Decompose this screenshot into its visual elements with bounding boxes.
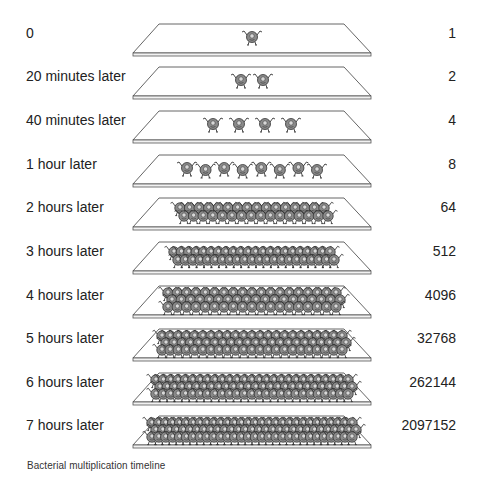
timeline-row: 7 hours later 2097152 [0,414,482,457]
time-label: 7 hours later [26,417,104,433]
petri-plate [131,153,375,193]
petri-plate [131,240,375,280]
count-label: 2097152 [401,417,456,433]
petri-plate [131,22,375,62]
timeline-row: 0 1 [0,22,482,65]
time-label: 0 [26,25,34,41]
petri-plate [131,371,375,411]
petri-plate [131,196,375,236]
count-label: 1 [448,25,456,41]
time-label: 6 hours later [26,374,104,390]
count-label: 4096 [425,287,456,303]
petri-plate [131,284,375,324]
time-label: 40 minutes later [26,112,126,128]
petri-plate [131,109,375,149]
timeline-row: 2 hours later 64 [0,196,482,239]
time-label: 2 hours later [26,199,104,215]
count-label: 4 [448,112,456,128]
time-label: 3 hours later [26,243,104,259]
count-label: 262144 [409,374,456,390]
time-label: 20 minutes later [26,68,126,84]
timeline-row: 4 hours later 4096 [0,284,482,327]
count-label: 32768 [417,330,456,346]
count-label: 2 [448,68,456,84]
timeline-row: 1 hour later 8 [0,153,482,196]
time-label: 4 hours later [26,287,104,303]
timeline-row: 6 hours later 262144 [0,371,482,414]
petri-plate [131,65,375,105]
petri-plate [131,327,375,367]
count-label: 8 [448,156,456,172]
petri-plate [131,414,375,454]
count-label: 512 [433,243,456,259]
timeline-row: 5 hours later 32768 [0,327,482,370]
timeline-row: 40 minutes later 4 [0,109,482,152]
time-label: 1 hour later [26,156,97,172]
figure-caption: Bacterial multiplication timeline [27,459,165,471]
timeline-row: 3 hours later 512 [0,240,482,283]
count-label: 64 [440,199,456,215]
timeline-row: 20 minutes later 2 [0,65,482,108]
time-label: 5 hours later [26,330,104,346]
